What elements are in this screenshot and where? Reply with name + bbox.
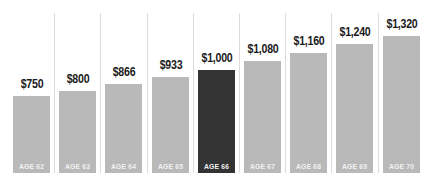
value-label: $1,240: [329, 25, 380, 39]
category-label: AGE 67: [247, 162, 278, 171]
category-label: AGE 65: [155, 162, 186, 171]
value-label: $866: [98, 65, 149, 79]
bar-age-64: AGE 64: [105, 84, 142, 173]
value-label: $1,320: [376, 17, 427, 31]
bar-age-69: AGE 69: [336, 44, 373, 173]
bar-age-67: AGE 67: [244, 61, 281, 173]
column-divider: [100, 13, 101, 173]
value-label: $1,160: [283, 34, 334, 48]
category-label: AGE 70: [386, 162, 417, 171]
category-label: AGE 62: [16, 162, 47, 171]
category-label: AGE 66: [201, 162, 232, 171]
bar-age-66: AGE 66: [198, 70, 235, 173]
value-label: $1,000: [191, 51, 242, 65]
value-label: $1,080: [237, 42, 288, 56]
column-divider: [239, 13, 240, 173]
column-divider: [54, 13, 55, 173]
category-label: AGE 64: [108, 162, 139, 171]
bar-age-68: AGE 68: [290, 53, 327, 173]
value-label: $933: [145, 58, 196, 72]
bar-age-65: AGE 65: [152, 77, 189, 173]
column-divider: [147, 13, 148, 173]
bar-age-62: AGE 62: [13, 96, 50, 173]
bar-age-63: AGE 63: [59, 91, 96, 173]
value-label: $750: [6, 77, 57, 91]
category-label: AGE 63: [62, 162, 93, 171]
bar-chart: AGE 62$750AGE 63$800AGE 64$866AGE 65$933…: [0, 0, 432, 183]
category-label: AGE 69: [339, 162, 370, 171]
bar-age-70: AGE 70: [383, 36, 420, 173]
column-divider: [193, 13, 194, 173]
category-label: AGE 68: [293, 162, 324, 171]
value-label: $800: [52, 72, 103, 86]
